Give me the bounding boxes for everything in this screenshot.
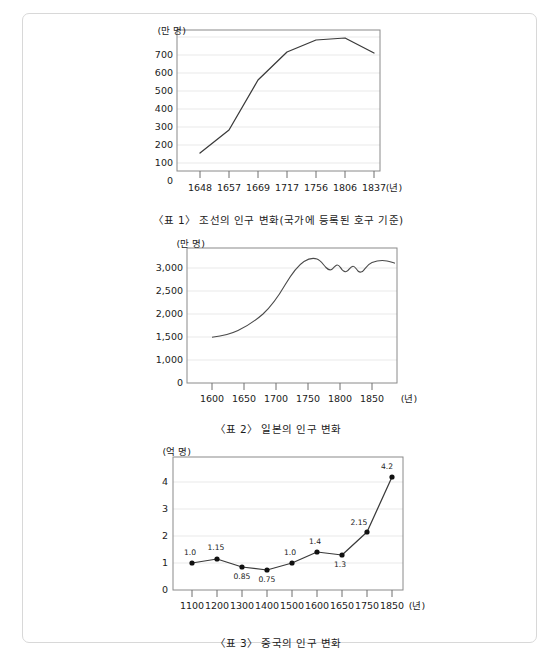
svg-text:(년): (년) (385, 182, 401, 193)
svg-text:(년): (년) (400, 393, 416, 404)
figure-2-chart: 3,000 2,500 2,000 1,500 1,000 0 1600 (139, 236, 419, 416)
svg-text:400: 400 (154, 103, 172, 114)
svg-text:3,000: 3,000 (155, 262, 182, 273)
figure-3: (억 명) 4 3 2 1 0 (0, 444, 557, 650)
svg-text:1850: 1850 (379, 600, 403, 611)
svg-text:1717: 1717 (274, 182, 298, 193)
svg-text:4.2: 4.2 (380, 462, 392, 471)
figure-2: (만 명) 3,000 2,500 2,000 1,500 1,000 0 (0, 236, 557, 436)
svg-text:2: 2 (161, 530, 167, 541)
svg-text:1669: 1669 (245, 182, 269, 193)
figure-1-x-ticks (200, 171, 374, 178)
figure-2-series-curve (212, 258, 395, 337)
svg-text:0: 0 (176, 377, 182, 388)
svg-text:(년): (년) (408, 600, 424, 611)
svg-text:500: 500 (154, 85, 172, 96)
figure-3-unit-label: (억 명) (163, 444, 191, 458)
figure-1-chart: 700 600 500 400 300 200 100 0 (154, 22, 404, 207)
svg-text:2,000: 2,000 (155, 308, 182, 319)
svg-text:0.85: 0.85 (233, 572, 250, 581)
svg-text:1200: 1200 (204, 600, 228, 611)
svg-text:600: 600 (154, 67, 172, 78)
svg-text:300: 300 (154, 121, 172, 132)
svg-text:700: 700 (154, 49, 172, 60)
svg-text:2,500: 2,500 (155, 285, 182, 296)
svg-text:1800: 1800 (327, 393, 351, 404)
svg-text:1400: 1400 (254, 600, 278, 611)
svg-text:4: 4 (161, 476, 167, 487)
svg-text:3: 3 (161, 503, 167, 514)
figure-1-x-tick-labels: 1648 1657 1669 1717 1756 1806 1837 (년) (187, 182, 401, 193)
figure-2-chart-wrap: (만 명) 3,000 2,500 2,000 1,500 1,000 0 (139, 236, 419, 416)
svg-text:1300: 1300 (229, 600, 253, 611)
figure-1-unit-label: (만 명) (158, 23, 186, 37)
svg-text:0: 0 (166, 175, 172, 186)
figure-1-plot-border (177, 30, 380, 171)
figure-1-gridlines (177, 37, 380, 163)
figure-2-gridlines (187, 268, 397, 360)
svg-text:200: 200 (154, 139, 172, 150)
figure-2-x-tick-labels: 1600 1650 1700 1750 1800 1850 (년) (199, 393, 416, 404)
svg-text:1850: 1850 (359, 393, 383, 404)
svg-text:1.3: 1.3 (333, 560, 345, 569)
svg-text:1: 1 (161, 557, 167, 568)
svg-text:1500: 1500 (279, 600, 303, 611)
svg-text:100: 100 (154, 157, 172, 168)
figure-2-y-tick-labels: 3,000 2,500 2,000 1,500 1,000 0 (155, 262, 182, 388)
figure-1-y-tick-labels: 700 600 500 400 300 200 100 0 (154, 49, 172, 186)
svg-text:0.75: 0.75 (258, 575, 275, 584)
svg-text:1756: 1756 (303, 182, 327, 193)
svg-text:1,000: 1,000 (155, 354, 182, 365)
svg-text:1.0: 1.0 (183, 548, 195, 557)
svg-text:1600: 1600 (304, 600, 328, 611)
svg-text:1100: 1100 (179, 600, 203, 611)
svg-text:1600: 1600 (199, 393, 223, 404)
svg-text:1806: 1806 (332, 182, 356, 193)
figure-3-point-labels: 1.0 1.15 0.85 0.75 1.0 1.4 1.3 2.15 4.2 (183, 462, 392, 584)
svg-text:1750: 1750 (295, 393, 319, 404)
svg-text:1837: 1837 (361, 182, 385, 193)
svg-text:1650: 1650 (329, 600, 353, 611)
svg-text:1.15: 1.15 (207, 543, 224, 552)
figure-3-plot-border (173, 457, 403, 590)
figure-3-chart: 4 3 2 1 0 1100 (129, 444, 429, 630)
figure-3-chart-wrap: (억 명) 4 3 2 1 0 (129, 444, 429, 630)
figure-1: (만 명) 700 600 (0, 22, 557, 227)
svg-text:2.15: 2.15 (350, 518, 367, 527)
svg-text:1.0: 1.0 (283, 548, 295, 557)
svg-text:1750: 1750 (354, 600, 378, 611)
figure-1-caption: 〈표 1〉 조선의 인구 변화(국가에 등록된 호구 기준) (0, 212, 557, 227)
figures-container: (만 명) 700 600 (0, 0, 557, 668)
figure-3-x-tick-labels: 1100 1200 1300 1400 1500 1600 1650 1750 … (179, 600, 424, 611)
figure-2-caption: 〈표 2〉 일본의 인구 변화 (0, 421, 557, 436)
svg-text:1657: 1657 (216, 182, 240, 193)
svg-text:1650: 1650 (231, 393, 255, 404)
figure-3-caption: 〈표 3〉 중국의 인구 변화 (0, 635, 557, 650)
svg-text:1648: 1648 (187, 182, 211, 193)
figure-3-y-tick-labels: 4 3 2 1 0 (161, 476, 167, 595)
svg-text:0: 0 (161, 584, 167, 595)
figure-2-unit-label: (만 명) (177, 236, 205, 250)
svg-text:1700: 1700 (263, 393, 287, 404)
svg-text:1,500: 1,500 (155, 331, 182, 342)
figure-3-x-ticks (192, 590, 392, 597)
figure-1-chart-wrap: (만 명) 700 600 (154, 22, 404, 207)
figure-2-x-ticks (212, 383, 372, 390)
svg-text:1.4: 1.4 (308, 537, 320, 546)
